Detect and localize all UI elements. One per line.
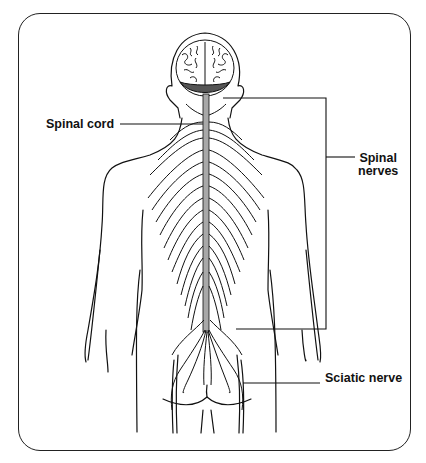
nervous-system-illustration xyxy=(0,0,426,463)
spinal-nerves-label: Spinal nerves xyxy=(358,152,398,178)
brain-icon xyxy=(176,40,234,96)
sciatic-nerve-label: Sciatic nerve xyxy=(325,372,402,385)
spinal-cord-label: Spinal cord xyxy=(46,118,114,131)
spinal-cord xyxy=(203,94,209,332)
spinal-nerves-label-line2: nerves xyxy=(358,165,398,178)
